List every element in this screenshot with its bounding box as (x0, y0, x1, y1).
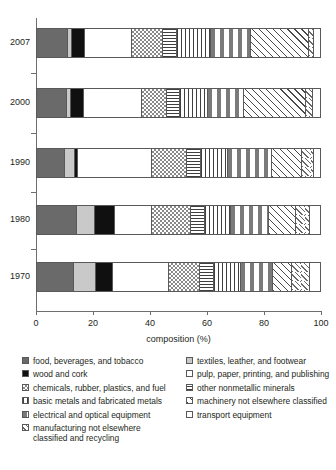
bar-2000 (36, 88, 321, 118)
y-axis-label-2007: 2007 (0, 37, 30, 47)
bar-segment (314, 29, 320, 57)
legend-label: chemicals, rubber, plastics, and fuel (33, 383, 166, 393)
legend-item: other nonmetallic minerals (186, 383, 334, 393)
legend-label: wood and cork (33, 369, 87, 379)
legend-label: transport equipment (197, 410, 272, 420)
bar-segment (214, 263, 241, 291)
bar-segment (37, 206, 77, 234)
legend-label: machinery not elsewhere classified (197, 396, 327, 406)
legend-item: chemicals, rubber, plastics, and fuel (22, 383, 184, 393)
bar-segment (37, 149, 65, 177)
legend-item: electrical and optical equipment (22, 410, 184, 420)
bar-segment (310, 263, 320, 291)
legend-label: other nonmetallic minerals (197, 383, 295, 393)
bar-segment (292, 263, 310, 291)
legend-label: pulp, paper, printing, and publishing (197, 369, 329, 379)
y-axis-tick (31, 133, 36, 134)
bar-segment (200, 263, 214, 291)
bar-segment (142, 89, 167, 117)
bar-segment (296, 206, 310, 234)
legend-item: basic metals and fabricated metals (22, 396, 184, 406)
bar-segment (306, 89, 313, 117)
bar-segment (72, 29, 85, 57)
bar-segment (37, 263, 74, 291)
bar-segment (152, 149, 187, 177)
bar-segment (95, 206, 115, 234)
bar-segment (251, 29, 309, 57)
legend-label: food, beverages, and tobacco (33, 356, 143, 366)
bar-segment (244, 89, 306, 117)
bar-segment (310, 206, 320, 234)
legend-item: food, beverages, and tobacco (22, 356, 184, 366)
legend-swatch-icon (22, 384, 29, 391)
legend-label: manufacturing not elsewhereclassified an… (33, 423, 141, 443)
legend-swatch-icon (186, 397, 193, 404)
bar-segment (163, 29, 177, 57)
legend-label-line2: classified and recycling (33, 433, 141, 443)
bar-segment (314, 149, 320, 177)
y-axis-tick (31, 73, 36, 74)
y-axis-label-1990: 1990 (0, 157, 30, 167)
y-axis-tick (31, 249, 36, 250)
x-axis-tick-label-100: 100 (306, 318, 336, 328)
bar-segment (115, 206, 152, 234)
x-axis-tick-label-20: 20 (78, 318, 108, 328)
y-axis-label-2000: 2000 (0, 97, 30, 107)
x-axis-tick (207, 311, 208, 315)
bar-segment (37, 89, 67, 117)
x-axis-tick-label-0: 0 (21, 318, 51, 328)
bar-segment (167, 89, 180, 117)
bar-segment (74, 263, 97, 291)
bar-1970 (36, 262, 321, 292)
legend-item: transport equipment (186, 410, 334, 420)
legend-swatch-icon (22, 397, 29, 404)
legend-item: pulp, paper, printing, and publishing (186, 369, 334, 379)
bar-segment (231, 206, 269, 234)
x-axis-tick-label-80: 80 (249, 318, 279, 328)
bar-segment (272, 149, 302, 177)
bar-segment (84, 89, 142, 117)
bar-segment (211, 29, 251, 57)
chart-page: 20072000199019801970 020406080100 compos… (0, 0, 336, 470)
y-axis-label-1970: 1970 (0, 271, 30, 281)
legend-swatch-icon (22, 370, 29, 377)
legend-column-left: food, beverages, and tobaccowood and cor… (22, 356, 184, 446)
x-axis-tick (36, 311, 37, 315)
legend-label: basic metals and fabricated metals (33, 396, 162, 406)
legend-swatch-icon (186, 384, 193, 391)
bar-segment (132, 29, 163, 57)
plot-area: 20072000199019801970 020406080100 compos… (0, 0, 336, 350)
bar-segment (228, 149, 272, 177)
x-axis-tick (150, 311, 151, 315)
bar-1990 (36, 148, 321, 178)
x-axis-title: composition (%) (36, 334, 321, 344)
bar-segment (269, 206, 296, 234)
legend-label: textiles, leather, and footwear (197, 356, 306, 366)
bar-segment (205, 206, 230, 234)
bar-segment (65, 149, 75, 177)
bar-segment (96, 263, 113, 291)
bar-segment (302, 149, 315, 177)
legend-swatch-icon (22, 424, 29, 431)
bar-segment (78, 149, 152, 177)
legend-item: textiles, leather, and footwear (186, 356, 334, 366)
bar-segment (169, 263, 200, 291)
legend-swatch-icon (186, 411, 193, 418)
bar-segment (313, 89, 320, 117)
x-axis-tick-label-60: 60 (192, 318, 222, 328)
bar-segment (241, 263, 274, 291)
legend-item: machinery not elsewhere classified (186, 396, 334, 406)
bar-segment (187, 149, 201, 177)
legend-label: electrical and optical equipment (33, 410, 150, 420)
bar-segment (201, 149, 228, 177)
x-axis-tick-label-40: 40 (135, 318, 165, 328)
y-axis-tick (31, 192, 36, 193)
bar-segment (77, 206, 95, 234)
x-axis-tick (93, 311, 94, 315)
legend-swatch-icon (186, 370, 193, 377)
bar-segment (191, 206, 205, 234)
bar-segment (208, 89, 243, 117)
legend-swatch-icon (22, 411, 29, 418)
legend-swatch-icon (186, 357, 193, 364)
bar-segment (177, 29, 211, 57)
